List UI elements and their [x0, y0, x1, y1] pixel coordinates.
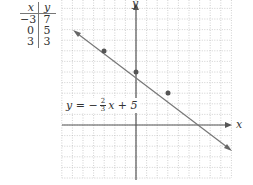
- values-table: x y −3 7 0 5 3 3: [20, 2, 56, 47]
- x-axis-label: x: [236, 118, 242, 131]
- table-divider: [38, 2, 39, 48]
- fraction-denominator: 3: [101, 106, 105, 113]
- point-neg3-7: [102, 49, 107, 54]
- equation-fraction: 2 3: [100, 98, 106, 113]
- header-x: x: [20, 2, 38, 13]
- point-0-5: [134, 70, 139, 75]
- y-axis-label: y: [132, 0, 138, 10]
- cell-y: 3: [38, 36, 56, 47]
- grid-lines: [62, 0, 232, 178]
- x-axis-arrow-icon: [225, 122, 232, 128]
- header-y: y: [38, 2, 56, 13]
- equation-rhs: x + 5: [108, 99, 137, 112]
- equation-lhs: y = −: [66, 99, 98, 112]
- equation-label: y = − 2 3 x + 5: [64, 98, 140, 113]
- point-3-3: [166, 91, 171, 96]
- cell-x: 3: [20, 36, 38, 47]
